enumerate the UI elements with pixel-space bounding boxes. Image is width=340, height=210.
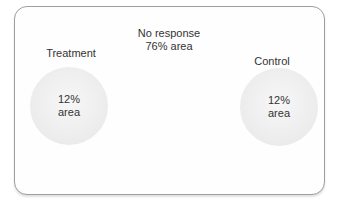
control-label: Control xyxy=(227,55,317,68)
no-response-line2: 76% area xyxy=(109,40,229,53)
treatment-area-percent: 12% xyxy=(58,93,80,106)
control-area-word: area xyxy=(268,107,290,120)
no-response-label: No response 76% area xyxy=(109,27,229,53)
treatment-area-word: area xyxy=(58,106,80,119)
treatment-circle: 12% area xyxy=(30,67,108,145)
control-circle: 12% area xyxy=(240,68,318,146)
no-response-line1: No response xyxy=(109,27,229,40)
control-area-percent: 12% xyxy=(268,94,290,107)
treatment-label: Treatment xyxy=(26,47,116,60)
diagram-canvas: No response 76% area Treatment Control 1… xyxy=(0,0,340,210)
